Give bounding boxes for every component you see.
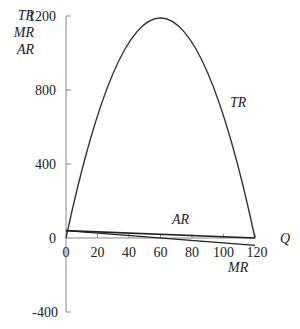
ar-label: AR (171, 212, 190, 227)
y-tick-400: 400 (35, 157, 56, 172)
x-title-q: Q (280, 231, 290, 246)
y-title-ar: AR (16, 42, 35, 57)
y-tick-800: 800 (35, 83, 56, 98)
chart: 1200 800 400 0 -400 0 20 40 60 80 100 12… (0, 0, 300, 329)
x-tick-60: 60 (154, 245, 168, 260)
tr-curve (66, 18, 255, 238)
x-tick-120: 120 (247, 245, 268, 260)
x-tick-40: 40 (122, 245, 136, 260)
x-tick-20: 20 (91, 245, 105, 260)
tr-label: TR (230, 95, 247, 110)
x-tick-0: 0 (63, 245, 70, 260)
y-ticks (66, 16, 71, 312)
y-title-tr: TR (18, 8, 35, 23)
y-tick-0: 0 (49, 231, 56, 246)
x-tick-100: 100 (213, 245, 234, 260)
y-title-mr: MR (13, 25, 35, 40)
mr-label: MR (227, 260, 249, 275)
y-tick-neg400: -400 (32, 305, 58, 320)
x-tick-80: 80 (185, 245, 199, 260)
